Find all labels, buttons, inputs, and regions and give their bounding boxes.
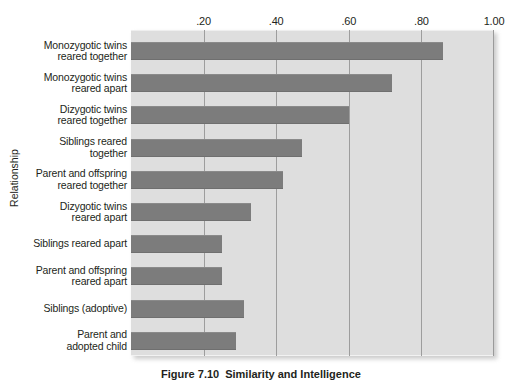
category-label: Siblings reared apart — [18, 238, 127, 250]
bar — [131, 203, 251, 221]
plot-bottom-highlight — [131, 355, 493, 356]
category-label: Parent and offspringreared apart — [18, 265, 127, 288]
category-label: Monozygotic twinsreared together — [18, 40, 127, 63]
category-label: Monozygotic twinsreared apart — [18, 72, 127, 95]
bar — [131, 42, 443, 60]
category-label-line: together — [18, 148, 127, 160]
category-label-line: adopted child — [18, 341, 127, 353]
caption-number: Figure 7.10 — [161, 368, 219, 380]
bar — [131, 74, 392, 92]
caption-text: Similarity and Intelligence — [225, 368, 361, 380]
x-tick-label: .80 — [414, 15, 429, 28]
category-label: Siblings rearedtogether — [18, 136, 127, 159]
category-label: Dizygotic twinsreared apart — [18, 201, 127, 224]
category-label-line: reared apart — [18, 276, 127, 288]
x-tick-label: .40 — [269, 15, 284, 28]
bar — [131, 106, 349, 124]
category-label-line: reared apart — [18, 83, 127, 95]
bar — [131, 171, 283, 189]
plot-top-highlight — [131, 30, 493, 31]
category-label-line: reared together — [18, 180, 127, 192]
x-tick-label: .60 — [341, 15, 356, 28]
bar — [131, 139, 302, 157]
category-label-line: reared together — [18, 115, 127, 127]
category-label-line: Siblings (adoptive) — [18, 303, 127, 315]
y-axis-title: Relationship — [8, 138, 20, 218]
figure-container: .20.40.60.801.00 Monozygotic twinsreared… — [0, 0, 522, 380]
x-tick-label: .20 — [196, 15, 211, 28]
category-label: Siblings (adoptive) — [18, 303, 127, 315]
category-label-line: Siblings reared — [18, 136, 127, 148]
bar — [131, 332, 236, 350]
figure-caption: Figure 7.10Similarity and Intelligence — [0, 368, 522, 380]
category-label: Dizygotic twinsreared together — [18, 104, 127, 127]
plot-area — [131, 30, 494, 356]
category-label-line: Siblings reared apart — [18, 238, 127, 250]
x-axis-tick-labels: .20.40.60.801.00 — [0, 15, 522, 30]
x-tick-label: 1.00 — [484, 15, 505, 28]
bar — [131, 300, 244, 318]
category-label: Parent andadopted child — [18, 329, 127, 352]
category-labels: Monozygotic twinsreared togetherMonozygo… — [18, 30, 127, 356]
category-label: Parent and offspringreared together — [18, 168, 127, 191]
category-label-line: reared apart — [18, 212, 127, 224]
gridline — [421, 30, 422, 356]
bar — [131, 267, 222, 285]
bar — [131, 235, 222, 253]
category-label-line: reared together — [18, 51, 127, 63]
